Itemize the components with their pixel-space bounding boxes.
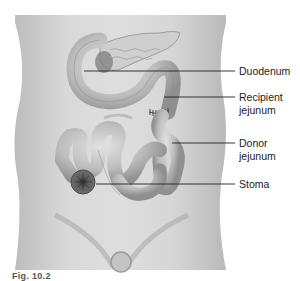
label-duodenum: Duodenum <box>239 65 290 78</box>
label-donor-jejunum: Donor jejunum <box>239 137 276 162</box>
stoma <box>71 170 95 194</box>
label-stoma: Stoma <box>239 178 269 191</box>
figure-caption: Fig. 10.2 <box>12 271 51 281</box>
label-recipient-jejunum: Recipient jejunum <box>239 91 283 116</box>
figure: Duodenum Recipient jejunum Donor jejunum… <box>0 0 300 281</box>
